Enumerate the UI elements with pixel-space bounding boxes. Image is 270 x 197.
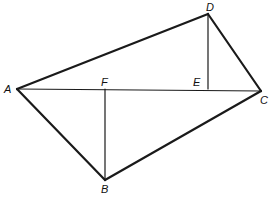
label-b: B [101, 183, 108, 195]
label-f: F [101, 76, 109, 88]
label-a: A [3, 83, 11, 95]
label-d: D [206, 1, 214, 13]
segment-ac [17, 89, 261, 91]
segment-ba [17, 89, 105, 180]
segment-ad [17, 14, 208, 89]
label-e: E [193, 76, 201, 88]
geometry-diagram: A F E D C B [0, 0, 270, 197]
segment-cb [105, 91, 261, 180]
diagram-svg: A F E D C B [0, 0, 270, 197]
label-c: C [260, 94, 268, 106]
segment-dc [208, 14, 261, 91]
